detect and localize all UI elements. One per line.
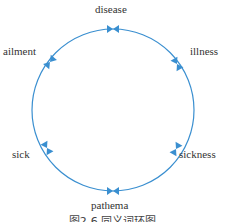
ring-graphic bbox=[0, 0, 225, 222]
bowtie-arrow-icon bbox=[107, 25, 119, 33]
arrow-markers bbox=[41, 25, 184, 195]
bowtie-arrow-icon bbox=[41, 141, 54, 155]
bowtie-arrow-icon bbox=[107, 187, 119, 195]
node-label-illness: illness bbox=[190, 45, 218, 57]
node-label-pathema: pathema bbox=[91, 199, 128, 211]
bowtie-arrow-icon bbox=[43, 55, 57, 69]
node-label-disease: disease bbox=[95, 3, 127, 15]
node-label-ailment: ailment bbox=[3, 45, 36, 57]
bowtie-arrow-icon bbox=[171, 57, 184, 71]
ring-circle bbox=[32, 29, 194, 191]
synonym-ring-diagram: disease illness sickness pathema sick ai… bbox=[0, 0, 225, 222]
node-label-sick: sick bbox=[12, 148, 30, 160]
node-label-sickness: sickness bbox=[179, 148, 216, 160]
figure-caption: 图2-6 同义词环图 bbox=[0, 212, 225, 222]
